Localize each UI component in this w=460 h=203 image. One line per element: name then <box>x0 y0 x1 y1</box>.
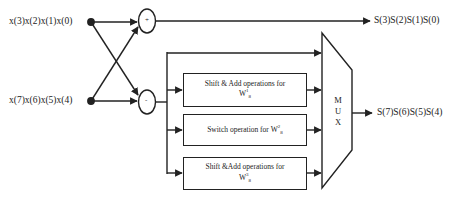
block-2-twiddle: W28 <box>271 124 283 136</box>
block-3-twiddle: W38 <box>239 172 251 184</box>
block-switch-w2: Switch operation for W28 <box>183 114 307 146</box>
wire-cross-down <box>91 22 138 95</box>
output-label-top: S(3)S(2)S(1)S(0) <box>374 16 439 26</box>
mux-label: M U X <box>331 95 345 128</box>
block-shift-add-w3: Shift &Add operations for W38 <box>183 157 307 190</box>
block-1-text: Shift & Add operations for <box>205 80 285 89</box>
block-shift-add-w1: Shift & Add operations for W18 <box>183 73 307 107</box>
block-1-twiddle: W18 <box>239 88 251 100</box>
butterfly-fft-diagram: x(3)x(2)x(1)x(0) x(7)x(6)x(5)x(4) + - Sh… <box>0 0 460 203</box>
block-2-text: Switch operation for <box>207 126 269 135</box>
wire-cross-up <box>91 27 138 101</box>
adder-plus-sign: + <box>145 16 149 24</box>
input-label-top: x(3)x(2)x(1)x(0) <box>9 17 72 27</box>
adder-minus-sign: - <box>145 96 147 104</box>
output-label-bottom: S(7)S(6)S(5)S(4) <box>377 108 442 118</box>
block-3-text: Shift &Add operations for <box>206 163 285 172</box>
input-label-bottom: x(7)x(6)x(5)x(4) <box>9 96 72 106</box>
